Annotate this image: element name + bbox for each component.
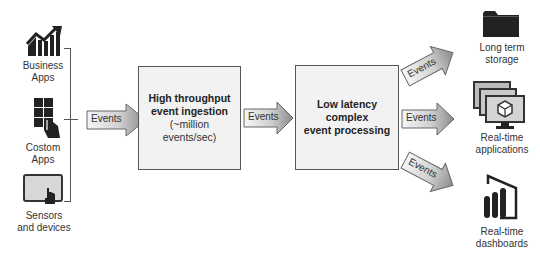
dashboards-label-1: Real-time	[468, 226, 536, 238]
ingestion-subtitle-1: (~million	[170, 118, 209, 131]
sensors-label-2: and devices	[10, 222, 78, 234]
business-chart-icon	[26, 26, 66, 58]
ingestion-title-1: High throughput	[148, 92, 230, 105]
processing-title-2: complex	[326, 111, 369, 124]
tablet-touch-icon	[23, 174, 63, 208]
events-arrow-process: Events	[243, 101, 295, 135]
storage-label-1: Long term	[470, 42, 534, 54]
applications-label-1: Real-time	[468, 132, 536, 144]
folder-icon	[482, 10, 520, 38]
processing-title-3: event processing	[304, 124, 390, 137]
business-apps-source: Business Apps	[18, 22, 68, 90]
power-bi-icon	[482, 174, 518, 220]
touch-app-icon	[34, 98, 62, 138]
processing-title-1: Low latency	[317, 98, 377, 111]
custom-apps-source: Costom Apps	[20, 96, 70, 168]
ingestion-box: High throughput event ingestion (~millio…	[138, 66, 241, 170]
sources-bracket	[64, 48, 71, 202]
dashboards-label-2: dashboards	[468, 238, 536, 250]
storage-label-2: storage	[470, 54, 534, 66]
events-arrow-dashboards: Events	[396, 145, 461, 201]
storage-destination: Long term storage	[470, 8, 534, 68]
sensors-label-1: Sensors	[10, 210, 78, 222]
dashboards-destination: Real-time dashboards	[468, 172, 536, 254]
ingestion-title-2: event ingestion	[151, 105, 228, 118]
bracket-tick	[64, 119, 78, 120]
events-label: Events	[248, 111, 279, 122]
ingestion-subtitle-2: events/sec)	[163, 131, 217, 144]
events-arrow-applications: Events	[401, 102, 455, 136]
events-label: Events	[406, 112, 437, 123]
monitors-cube-icon	[472, 80, 528, 130]
events-arrow-storage: Events	[396, 37, 461, 93]
applications-label-2: applications	[468, 144, 536, 156]
events-label: Events	[91, 113, 122, 124]
processing-box: Low latency complex event processing	[295, 65, 399, 170]
applications-destination: Real-time applications	[468, 80, 536, 160]
